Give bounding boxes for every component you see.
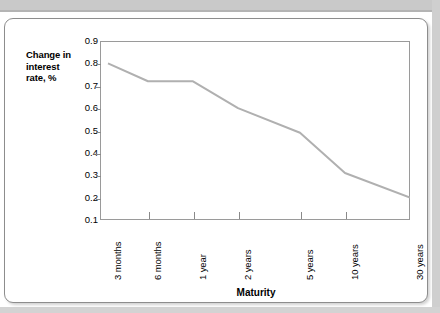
x-tick-label: 3 months <box>112 242 123 280</box>
x-tick-label: 30 years <box>414 244 425 280</box>
top-band-edge <box>0 10 440 12</box>
figure-card: Change in interest rate, % 0.90.80.70.60… <box>4 18 428 303</box>
x-axis-tick-labels: 3 months6 months1 year2 years5 years10 y… <box>100 222 412 284</box>
y-tick-label: 0.6 <box>78 103 98 113</box>
x-tick-label: 1 year <box>197 254 208 280</box>
x-tick-label: 6 months <box>152 242 163 280</box>
data-line <box>108 63 410 197</box>
y-tick-label: 0.8 <box>78 58 98 68</box>
x-axis-title: Maturity <box>100 287 412 298</box>
x-tick-label: 10 years <box>349 244 360 280</box>
chart-line-layer <box>100 41 410 220</box>
bottom-grey-strip <box>0 307 440 313</box>
x-tick-label: 5 years <box>304 250 315 280</box>
y-tick-label: 0.5 <box>78 126 98 136</box>
x-tick-label: 2 years <box>242 250 253 280</box>
y-tick-label: 0.1 <box>78 215 98 225</box>
y-tick-label: 0.7 <box>78 81 98 91</box>
right-grey-strip <box>432 0 440 313</box>
y-tick-label: 0.3 <box>78 170 98 180</box>
y-tick-label: 0.4 <box>78 148 98 158</box>
y-tick-label: 0.9 <box>78 36 98 46</box>
y-tick-label: 0.2 <box>78 193 98 203</box>
y-axis-tick-labels: 0.90.80.70.60.50.40.30.20.1 <box>73 41 98 221</box>
